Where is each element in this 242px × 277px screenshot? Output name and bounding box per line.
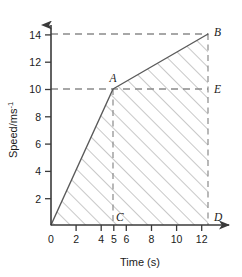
- y-tick-label-14: 14: [29, 29, 41, 41]
- x-tick-label-4: 4: [98, 233, 104, 245]
- x-tick-label-2: 2: [73, 233, 79, 245]
- x-axis-ticks: [76, 225, 202, 231]
- x-tick-label-6: 6: [123, 233, 129, 245]
- shaded-area-group: [51, 34, 208, 225]
- y-tick-label-12: 12: [29, 56, 41, 68]
- y-tick-label-4: 4: [35, 165, 41, 177]
- point-label-c: C: [116, 211, 124, 223]
- speed-time-graph: 2 4 6 8 10 12 14 0 2 4 5 6 8 10 12 A B C…: [0, 0, 242, 277]
- y-axis-ticks: [45, 35, 51, 199]
- y-axis-title-text: Speed/ms: [7, 108, 19, 158]
- point-label-e: E: [213, 83, 221, 95]
- y-tick-label-2: 2: [35, 193, 41, 205]
- y-tick-label-6: 6: [35, 138, 41, 150]
- area-under-graph: [51, 34, 208, 225]
- x-tick-label-12: 12: [196, 233, 208, 245]
- point-label-d: D: [213, 211, 223, 223]
- x-tick-label-5: 5: [111, 233, 117, 245]
- point-label-b: B: [214, 26, 221, 38]
- x-tick-label-8: 8: [149, 233, 155, 245]
- x-axis-tick-labels: 0 2 4 5 6 8 10 12: [48, 233, 208, 245]
- y-axis-title-superscript: -1: [6, 102, 15, 109]
- chart-canvas: 2 4 6 8 10 12 14 0 2 4 5 6 8 10 12 A B C…: [0, 0, 242, 277]
- x-tick-label-10: 10: [171, 233, 183, 245]
- y-axis-tick-labels: 2 4 6 8 10 12 14: [29, 29, 41, 205]
- y-tick-label-10: 10: [29, 83, 41, 95]
- point-label-a: A: [108, 72, 117, 84]
- x-tick-label-0: 0: [48, 233, 54, 245]
- y-axis-title: Speed/ms-1: [6, 102, 19, 158]
- y-tick-label-8: 8: [35, 111, 41, 123]
- x-axis-title: Time (s): [120, 256, 160, 268]
